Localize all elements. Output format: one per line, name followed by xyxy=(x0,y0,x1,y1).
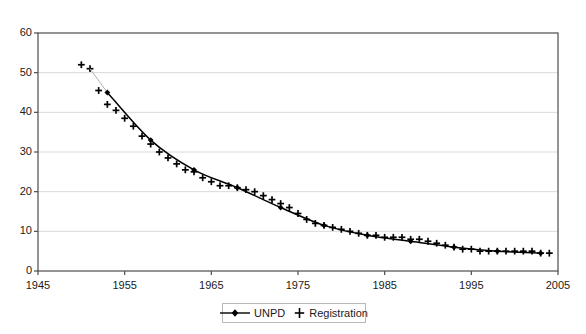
x-axis-tick-label: 1965 xyxy=(187,280,235,291)
gridlines xyxy=(38,73,558,232)
y-axis-tick-label: 0 xyxy=(6,265,32,276)
x-axis-ticks xyxy=(34,33,558,275)
x-axis-tick-label: 1995 xyxy=(447,280,495,291)
x-axis-tick-label: 1945 xyxy=(14,280,62,291)
plus-marker-icon xyxy=(294,307,305,319)
y-axis-tick-label: 20 xyxy=(6,186,32,197)
y-axis-tick-label: 10 xyxy=(6,225,32,236)
y-axis-tick-label: 60 xyxy=(6,27,32,38)
legend-entry-unpd[interactable]: UNPD xyxy=(220,307,285,319)
x-axis-tick-label: 2005 xyxy=(534,280,582,291)
x-axis-tick-label: 1985 xyxy=(361,280,409,291)
legend-label-registration: Registration xyxy=(309,308,368,319)
legend-label-unpd: UNPD xyxy=(254,308,285,319)
y-axis-tick-label: 40 xyxy=(6,106,32,117)
legend-entry-registration[interactable]: Registration xyxy=(294,307,368,319)
x-axis-tick-label: 1955 xyxy=(101,280,149,291)
chart-container: 6050403020100 19451955196519751985199520… xyxy=(0,0,586,334)
y-axis-tick-label: 50 xyxy=(6,67,32,78)
series-registration-markers xyxy=(78,61,553,256)
line-with-diamond-marker-icon xyxy=(220,307,250,319)
y-axis-tick-label: 30 xyxy=(6,146,32,157)
chart-legend: UNPD Registration xyxy=(222,303,366,323)
x-axis-tick-label: 1975 xyxy=(274,280,322,291)
